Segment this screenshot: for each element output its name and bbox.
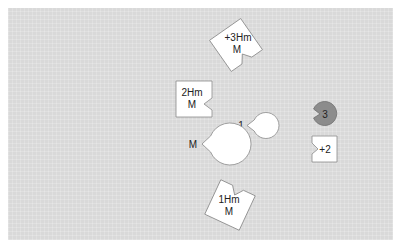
pieces-canvas: +3Hm M 2Hm M 1 M 3 +2 1Hm M: [0, 0, 404, 252]
piece-2hm-label-1: 2Hm: [181, 87, 202, 98]
piece-m-label: M: [189, 139, 197, 150]
piece-1hm[interactable]: [205, 180, 255, 230]
piece-three-label: 3: [322, 109, 328, 120]
piece-plus3hm-label-2: M: [233, 44, 241, 55]
piece-plus2-label: +2: [319, 144, 331, 155]
piece-one[interactable]: [247, 113, 279, 139]
piece-2hm-label-2: M: [188, 99, 196, 110]
piece-1hm-label-1: 1Hm: [218, 194, 239, 205]
piece-1hm-label-2: M: [225, 206, 233, 217]
piece-m[interactable]: [202, 123, 251, 165]
piece-plus3hm-label-1: +3Hm: [225, 32, 252, 43]
